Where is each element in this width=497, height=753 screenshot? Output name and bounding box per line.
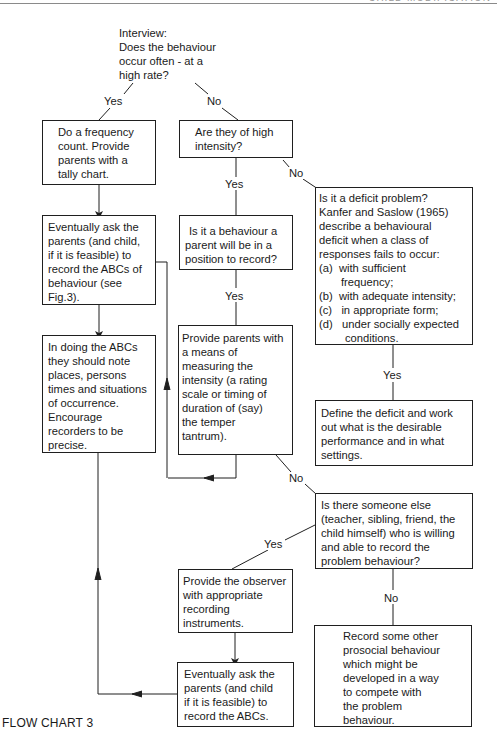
node-text: precise. (48, 438, 150, 452)
node-text: position to record? (185, 252, 287, 266)
node-text: recording (183, 602, 288, 616)
start-line: high rate? (119, 68, 216, 82)
node-text: a means of (182, 345, 289, 359)
edge-label-means-no: No (288, 472, 304, 484)
node-ask-parents-abc-2: Eventually ask the parents (and child if… (177, 662, 294, 727)
node-text: and able to record the (321, 540, 467, 554)
node-someone-else: Is there someone else (teacher, sibling,… (315, 493, 473, 569)
node-text: if it is feasible) to (184, 695, 287, 709)
figure-caption: FLOW CHART 3 (2, 716, 93, 730)
edge-label-someone-no: No (383, 592, 399, 604)
edge-label-someone-yes: Yes (263, 538, 283, 550)
node-text: intensity? (185, 139, 287, 153)
list-marker: (a) (319, 262, 333, 274)
list-marker: (c) (319, 304, 332, 316)
node-text: behaviour. (343, 713, 466, 727)
node-text: Kanfer and Saslow (1965) (319, 205, 469, 219)
node-text: if it is feasible) to (48, 248, 150, 262)
list-marker: (d) (319, 318, 333, 330)
node-text: scale or timing of (182, 387, 289, 401)
list-item-d: (d) under socially expected (319, 317, 469, 331)
node-text: Eventually ask the (48, 220, 150, 234)
edge-label-intensity-no: No (288, 167, 304, 179)
list-text: under socially expected (342, 318, 459, 330)
node-text: developed in a way (343, 671, 466, 685)
node-text: Is it a behaviour a (185, 224, 287, 238)
node-text: parents (and child, (48, 234, 150, 248)
node-text: Define the deficit and work (321, 406, 467, 420)
node-text: Provide parents with (182, 331, 289, 345)
edge-label-intensity-yes: Yes (224, 178, 244, 190)
edge-label-position-yes: Yes (224, 290, 244, 302)
start-line: Interview: (119, 26, 216, 40)
node-text: measuring the (182, 359, 289, 373)
node-text: Is it a deficit problem? (319, 191, 469, 205)
node-text: Are they of high (185, 125, 287, 139)
node-frequency-count: Do a frequency count. Provide parents wi… (42, 120, 156, 185)
start-line: occur often - at a (119, 54, 216, 68)
node-text: settings. (321, 448, 467, 462)
node-text: record the ABCs of (48, 262, 150, 276)
list-item-d-cont: conditions. (319, 331, 469, 345)
node-text: describe a behavioural (319, 219, 469, 233)
node-text: Provide the observer (183, 574, 288, 588)
node-text: the temper (182, 415, 289, 429)
node-text: Is there someone else (321, 498, 467, 512)
node-text: the problem (343, 699, 466, 713)
node-define-deficit: Define the deficit and work out what is … (315, 400, 473, 466)
node-text: places, persons (48, 368, 150, 382)
node-text: times and situations (48, 382, 150, 396)
node-text: parents (and child (184, 681, 287, 695)
node-text: tantrum). (182, 429, 289, 443)
list-text: with sufficient (339, 262, 406, 274)
node-text: responses fails to occur: (319, 247, 469, 261)
node-text: Record some other (343, 629, 466, 643)
node-text: In doing the ABCs (48, 340, 150, 354)
list-text: with adequate intensity; (339, 290, 456, 302)
node-text: parents with a (48, 153, 150, 167)
node-parent-position: Is it a behaviour a parent will be in a … (179, 215, 293, 270)
node-text: Encourage (48, 410, 150, 424)
node-high-intensity: Are they of high intensity? (179, 120, 293, 158)
node-text: recorders to be (48, 424, 150, 438)
list-text: in appropriate form; (341, 304, 438, 316)
edge-label-start-no: No (206, 95, 222, 107)
node-text: tally chart. (48, 167, 150, 181)
node-text: to compete with (343, 685, 466, 699)
node-text: performance and in what (321, 434, 467, 448)
node-text: prosocial behaviour (343, 643, 466, 657)
list-item-a-cont: frequency; (319, 275, 469, 289)
node-text: Eventually ask the (184, 667, 287, 681)
node-text: intensity (a rating (182, 373, 289, 387)
node-text: parent will be in a (185, 238, 287, 252)
node-text: deficit when a class of (319, 233, 469, 247)
node-text: of occurrence. (48, 396, 150, 410)
edge-label-start-yes: Yes (103, 95, 123, 107)
node-text: which might be (343, 657, 466, 671)
list-item-c: (c) in appropriate form; (319, 303, 469, 317)
node-text: child himself) who is willing (321, 526, 467, 540)
node-deficit-problem: Is it a deficit problem? Kanfer and Sasl… (315, 187, 473, 345)
node-text: duration of (say) (182, 401, 289, 415)
start-question: Interview: Does the behaviour occur ofte… (119, 26, 216, 82)
node-text: Fig.3). (48, 290, 150, 304)
node-prosocial: Record some other prosocial behaviour wh… (314, 625, 472, 727)
node-text: Do a frequency (48, 125, 150, 139)
node-text: out what is the desirable (321, 420, 467, 434)
list-item-b: (b) with adequate intensity; (319, 289, 469, 303)
start-line: Does the behaviour (119, 40, 216, 54)
edge-label-deficit-yes: Yes (382, 369, 402, 381)
node-doing-abcs: In doing the ABCs they should note place… (42, 335, 156, 453)
node-text: they should note (48, 354, 150, 368)
node-ask-parents-abc: Eventually ask the parents (and child, i… (42, 215, 156, 305)
list-marker: (b) (319, 290, 333, 302)
node-text: (teacher, sibling, friend, the (321, 512, 467, 526)
node-text: record the ABCs. (184, 709, 287, 723)
node-text: count. Provide (48, 139, 150, 153)
node-provide-observer: Provide the observer with appropriate re… (178, 569, 293, 633)
node-text: problem behaviour? (321, 554, 467, 568)
node-measure-intensity: Provide parents with a means of measurin… (178, 325, 293, 455)
node-text: instruments. (183, 616, 288, 630)
node-text: behaviour (see (48, 276, 150, 290)
node-text: with appropriate (183, 588, 288, 602)
